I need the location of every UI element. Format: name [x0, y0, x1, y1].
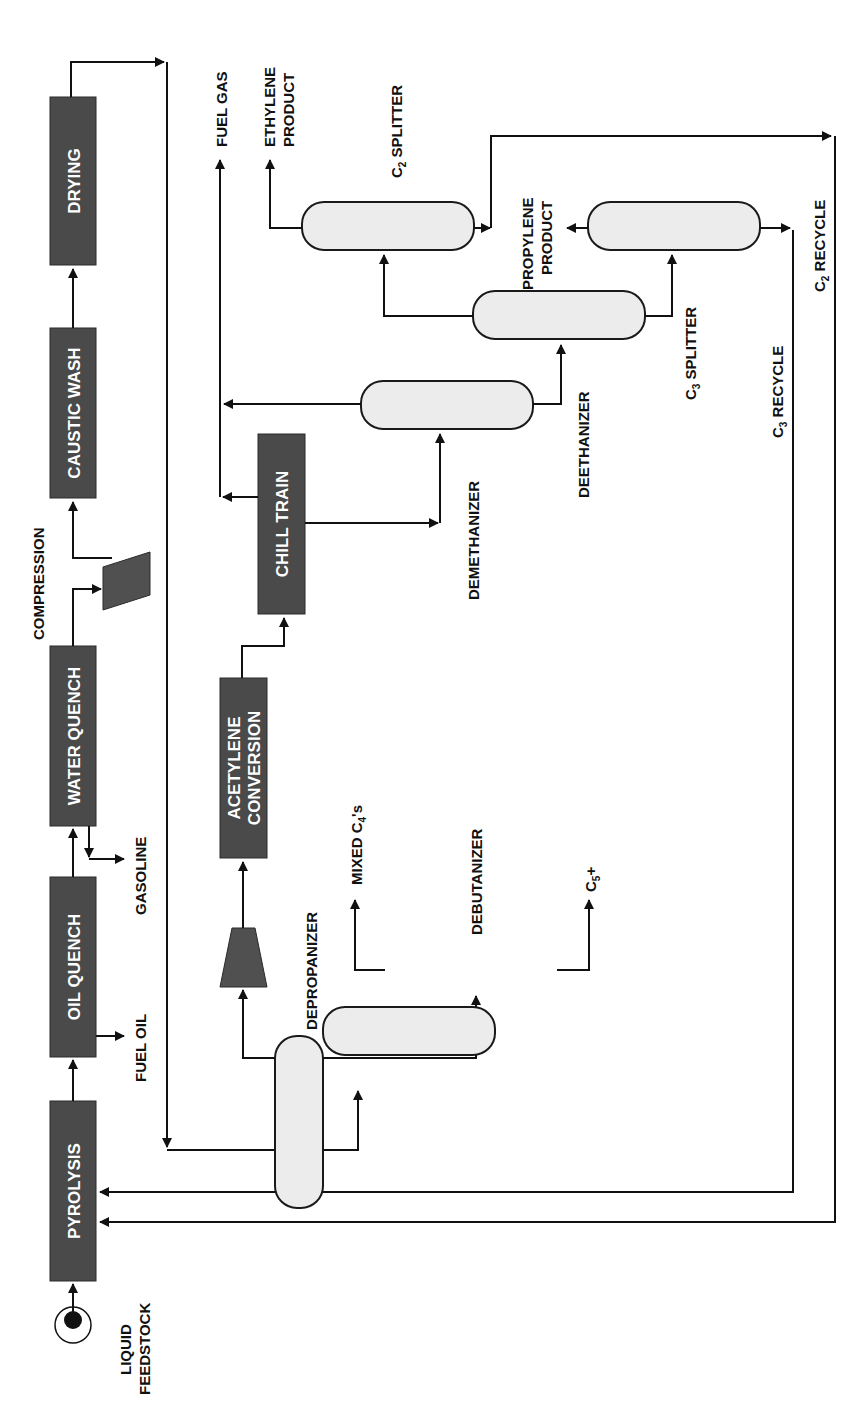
acetylene-conversion-block: ACETYLENE CONVERSION	[220, 678, 267, 858]
process-flow-diagram: LIQUID FEEDSTOCK PYROLYSIS OIL QUENCH FU…	[0, 0, 858, 1408]
deethanizer-label: DEETHANIZER	[575, 391, 592, 498]
acetylene-label-2: CONVERSION	[245, 711, 264, 825]
chill-train-block: CHILL TRAIN	[258, 434, 305, 614]
caustic-wash-block: CAUSTIC WASH	[50, 328, 96, 498]
oil-quench-label: OIL QUENCH	[65, 914, 84, 1020]
pyrolysis-block: PYROLYSIS	[50, 1101, 96, 1281]
drying-label: DRYING	[65, 148, 84, 214]
compressor-icon	[103, 552, 150, 610]
water-quench-to-compressor-line	[73, 589, 101, 646]
compressor-2-icon	[220, 928, 267, 987]
c2-splitter-label: C2 SPLITTER	[388, 85, 408, 178]
gasoline-label: GASOLINE	[132, 837, 149, 915]
ethylene-label-2: PRODUCT	[280, 73, 297, 147]
water-quench-label: WATER QUENCH	[65, 667, 84, 806]
demethanizer-label: DEMETHANIZER	[465, 481, 482, 600]
feed-label-2: FEEDSTOCK	[136, 1303, 153, 1395]
fuel-gas-label: FUEL GAS	[213, 71, 230, 147]
water-quench-block: WATER QUENCH	[50, 646, 96, 826]
c2-splitter-column	[302, 202, 474, 250]
oil-quench-block: OIL QUENCH	[50, 877, 96, 1057]
depropanizer-overhead-line	[243, 990, 275, 1058]
compressor-to-caustic-wash-line	[73, 502, 112, 558]
demethanizer-column	[361, 381, 533, 429]
propylene-label-1: PROPYLENE	[519, 197, 536, 290]
deethanizer-bottoms-line	[645, 255, 672, 316]
compression-label: COMPRESSION	[30, 527, 47, 640]
pyrolysis-label: PYROLYSIS	[65, 1143, 84, 1239]
debutanizer-column	[323, 1007, 495, 1055]
fuel-oil-label: FUEL OIL	[132, 1014, 149, 1082]
mixed-c4-line	[355, 900, 385, 970]
c2-recycle-label: C2 RECYCLE	[811, 200, 831, 292]
c5-plus-label: C5+	[582, 867, 602, 892]
c2-recycle-line	[100, 136, 835, 1222]
debutanizer-label: DEBUTANIZER	[468, 828, 485, 935]
drying-output-line	[71, 62, 164, 97]
chill-train-label: CHILL TRAIN	[273, 471, 292, 577]
c3-splitter-column	[588, 202, 760, 250]
c5-plus-line	[557, 900, 589, 970]
deethanizer-column	[473, 291, 645, 339]
depropanizer-label: DEPROPANIZER	[303, 912, 320, 1030]
c3-splitter-label: C3 SPLITTER	[682, 307, 702, 400]
drying-block: DRYING	[50, 97, 96, 265]
propylene-label-2: PRODUCT	[538, 201, 555, 275]
c3-recycle-label: C3 RECYCLE	[769, 346, 789, 438]
caustic-wash-label: CAUSTIC WASH	[65, 347, 84, 478]
mixed-c4-label: MIXED C4's	[348, 805, 368, 885]
ethylene-product-line	[270, 160, 302, 228]
ethylene-label-1: ETHYLENE	[261, 67, 278, 147]
feed-label-1: LIQUID	[117, 1324, 134, 1375]
depropanizer-column	[275, 1036, 323, 1208]
demethanizer-bottoms-line	[533, 345, 561, 404]
acetylene-to-chill-train-line	[242, 618, 284, 678]
deethanizer-overhead-line	[384, 255, 473, 316]
acetylene-label-1: ACETYLENE	[225, 717, 244, 820]
depropanizer-feed-line	[167, 1091, 358, 1150]
